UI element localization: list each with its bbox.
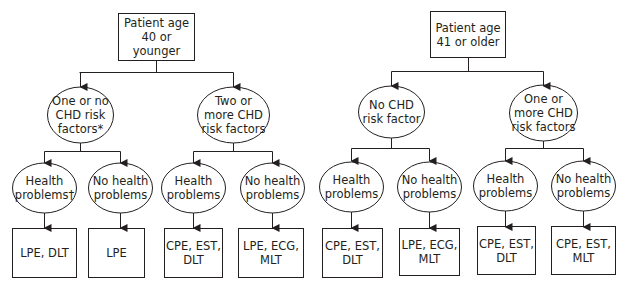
result-box: LPE, ECG, MLT: [399, 228, 460, 276]
root-node-age-40-or-younger: Patient age 40 or younger: [118, 13, 195, 61]
health-node-no-health-problems: No health problems: [240, 163, 305, 213]
result-box: CPE, EST, DLT: [322, 228, 383, 278]
health-node-no-health-problems: No health problems: [551, 161, 616, 211]
result-box: LPE: [88, 228, 145, 278]
root-node-age-41-or-older: Patient age 41 or older: [430, 11, 506, 58]
result-box: CPE, EST, DLT: [164, 228, 223, 278]
risk-node-one-or-more-chd: One or more CHD risk factors: [509, 85, 578, 141]
result-box: LPE, ECG, MLT: [238, 228, 304, 278]
health-node-health-problems: Health problems: [319, 162, 384, 212]
health-node-health-problems: Health problems: [473, 161, 538, 211]
result-box: LPE, DLT: [12, 228, 77, 278]
result-box: CPE, EST, DLT: [477, 226, 536, 275]
health-node-no-health-problems: No health problems: [88, 163, 153, 213]
risk-node-two-or-more-chd: Two or more CHD risk factors: [197, 87, 270, 143]
health-node-health-problems: Health problems: [161, 163, 226, 213]
result-box: CPE, EST, MLT: [551, 226, 616, 275]
health-node-health-problems: Health problems†: [12, 163, 77, 213]
health-node-no-health-problems: No health problems: [397, 162, 462, 212]
risk-node-one-or-no-chd: One or no CHD risk factors*: [47, 87, 114, 143]
risk-node-no-chd: No CHD risk factor: [358, 86, 425, 138]
